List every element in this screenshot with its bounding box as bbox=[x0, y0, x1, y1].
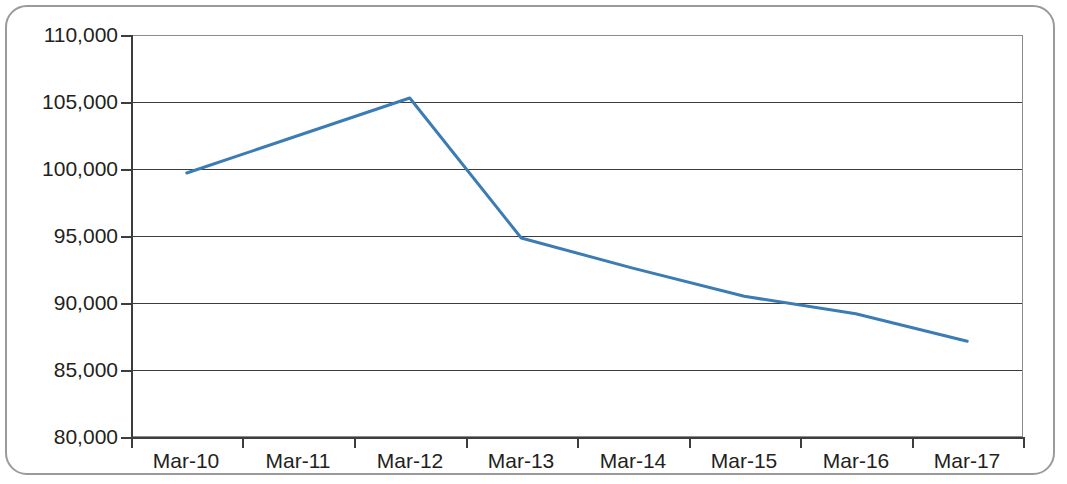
plot-area-border bbox=[131, 35, 1023, 437]
x-axis-tick-label-mar-15: Mar-15 bbox=[684, 450, 804, 471]
y-axis-tick-label: 80,000 bbox=[8, 426, 118, 447]
y-tick-mark-90000 bbox=[121, 303, 131, 305]
y-axis-tick-label: 110,000 bbox=[8, 24, 118, 45]
x-tick-mark-7 bbox=[912, 437, 914, 448]
x-tick-mark-4 bbox=[577, 437, 579, 448]
x-tick-mark-6 bbox=[800, 437, 802, 448]
y-axis-line bbox=[131, 35, 133, 437]
y-tick-mark-100000 bbox=[121, 169, 131, 171]
y-axis-tick-label: 85,000 bbox=[8, 359, 118, 380]
x-axis-tick-label-mar-13: Mar-13 bbox=[461, 450, 581, 471]
x-tick-mark-8 bbox=[1023, 437, 1025, 448]
y-axis-tick-label: 100,000 bbox=[8, 158, 118, 179]
y-tick-mark-85000 bbox=[121, 370, 131, 372]
x-axis-tick-label-mar-16: Mar-16 bbox=[796, 450, 916, 471]
x-tick-mark-2 bbox=[354, 437, 356, 448]
x-axis-tick-label-mar-10: Mar-10 bbox=[126, 450, 246, 471]
y-tick-mark-95000 bbox=[121, 236, 131, 238]
x-axis-tick-label-mar-11: Mar-11 bbox=[238, 450, 358, 471]
y-tick-mark-80000 bbox=[121, 437, 131, 439]
y-axis-tick-label: 90,000 bbox=[8, 292, 118, 313]
y-axis-tick-label: 95,000 bbox=[8, 225, 118, 246]
x-axis-tick-label-mar-12: Mar-12 bbox=[350, 450, 470, 471]
x-axis-tick-label-mar-17: Mar-17 bbox=[907, 450, 1027, 471]
y-tick-mark-110000 bbox=[121, 35, 131, 37]
x-tick-mark-1 bbox=[242, 437, 244, 448]
chart-figure: 110,000 105,000 100,000 95,000 90,000 85… bbox=[0, 0, 1067, 484]
y-axis-tick-label: 105,000 bbox=[8, 91, 118, 112]
x-axis-tick-label-mar-14: Mar-14 bbox=[573, 450, 693, 471]
x-tick-mark-3 bbox=[466, 437, 468, 448]
x-tick-mark-5 bbox=[689, 437, 691, 448]
y-tick-mark-105000 bbox=[121, 102, 131, 104]
x-tick-mark-0 bbox=[131, 437, 133, 448]
